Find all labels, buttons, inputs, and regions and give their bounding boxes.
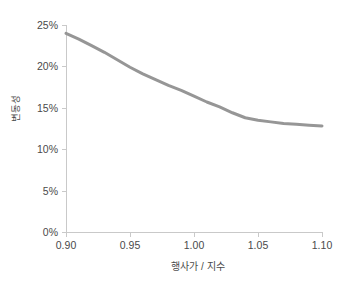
x-axis-title: 행사가 / 지수: [0, 258, 346, 273]
volatility-smile-chart: 0% 5% 10% 15% 20% 25% 0.90 0.95 1.00 1.0…: [0, 0, 346, 285]
y-axis-tick: [62, 25, 66, 26]
x-axis-tick-label: 0.90: [42, 240, 90, 251]
y-axis-tick-label: 25%: [14, 20, 58, 31]
y-axis-tick: [62, 149, 66, 150]
y-axis-tick-label: 5%: [14, 186, 58, 197]
x-axis-tick: [322, 233, 323, 237]
y-axis-tick-label: 0%: [14, 227, 58, 238]
y-axis-tick: [62, 108, 66, 109]
y-axis-tick-label: 10%: [14, 144, 58, 155]
x-axis-tick: [194, 233, 195, 237]
x-axis-tick: [258, 233, 259, 237]
y-axis-line: [66, 25, 67, 233]
y-axis-tick: [62, 66, 66, 67]
x-axis-tick: [66, 233, 67, 237]
y-axis-title: 변동성: [8, 95, 22, 122]
x-axis-tick-label: 0.95: [106, 240, 154, 251]
volatility-series-line: [66, 33, 322, 126]
x-axis-tick: [130, 233, 131, 237]
y-axis-tick-label: 20%: [14, 61, 58, 72]
y-axis-tick: [62, 191, 66, 192]
x-axis-tick-label: 1.05: [234, 240, 282, 251]
x-axis-tick-label: 1.00: [170, 240, 218, 251]
x-axis-tick-label: 1.10: [298, 240, 346, 251]
